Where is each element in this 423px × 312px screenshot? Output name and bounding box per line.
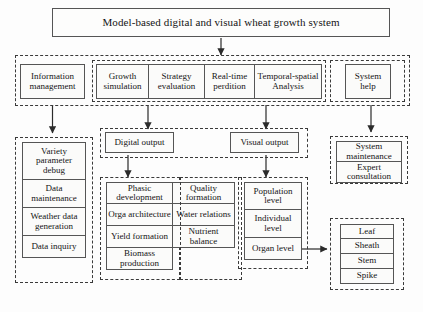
organ-part-spike[interactable]: Spike	[340, 269, 394, 284]
menu-growth-simulation[interactable]: Growth simulation	[96, 64, 149, 99]
left-item-variety-parameter-debug[interactable]: Variety parameter debug	[22, 142, 86, 180]
digital-output-box[interactable]: Digital output	[105, 132, 174, 153]
organ-part-stem[interactable]: Stem	[340, 254, 394, 269]
menu-system-help[interactable]: System help	[345, 64, 391, 99]
digital-detail-right-group	[180, 177, 242, 280]
support-item-expert-consultation[interactable]: Expert consultation	[336, 162, 402, 183]
visual-item-individual-level[interactable]: Individual level	[244, 210, 302, 238]
menu-temporal-spatial-analysis[interactable]: Temporal-spatial Analysis	[255, 64, 322, 99]
visual-output-box[interactable]: Visual output	[230, 132, 299, 153]
menu-information-management[interactable]: Information management	[20, 64, 85, 99]
digital-item-biomass-production[interactable]: Biomass production	[106, 248, 173, 270]
left-item-data-inquiry[interactable]: Data inquiry	[22, 236, 86, 258]
visual-item-population-level[interactable]: Population level	[244, 182, 302, 210]
menu-strategy-evaluation[interactable]: Strategy evaluation	[149, 64, 205, 99]
system-title-box: Model-based digital and visual wheat gro…	[52, 8, 390, 37]
digital-item-yield-formation[interactable]: Yield formation	[106, 226, 173, 248]
digital-item-phasic-development[interactable]: Phasic development	[106, 182, 173, 204]
left-item-data-maintenance[interactable]: Data maintenance	[22, 180, 86, 208]
organ-part-sheath[interactable]: Sheath	[340, 239, 394, 254]
left-item-weather-data-generation[interactable]: Weather data generation	[22, 208, 86, 236]
digital-item-orga-architecture[interactable]: Orga architecture	[106, 204, 173, 226]
visual-item-organ-level[interactable]: Organ level	[244, 238, 302, 260]
menu-real-time-perdition[interactable]: Real-time perdition	[205, 64, 255, 99]
organ-part-leaf[interactable]: Leaf	[340, 224, 394, 239]
support-item-system-maintenance[interactable]: System maintenance	[336, 141, 402, 162]
diagram-canvas: Model-based digital and visual wheat gro…	[0, 0, 423, 312]
